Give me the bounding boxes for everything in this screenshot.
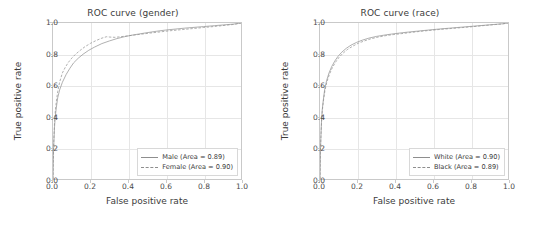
- y-tick-mark: [49, 54, 52, 55]
- x-tick-label: 0.6: [160, 182, 172, 191]
- x-axis-label: False positive rate: [319, 196, 509, 206]
- x-tick-mark: [471, 180, 472, 183]
- y-tick-mark: [316, 22, 319, 23]
- legend-line-solid-icon: [413, 153, 430, 161]
- legend-label: White (Area = 0.90): [434, 152, 500, 162]
- legend-item: White (Area = 0.90): [413, 152, 500, 162]
- legend-item: Male (Area = 0.89): [141, 152, 233, 162]
- legend-item: Black (Area = 0.89): [413, 162, 500, 172]
- y-tick-mark: [316, 148, 319, 149]
- plot-area-gender: Male (Area = 0.89) Female (Area = 0.90): [52, 22, 242, 180]
- y-axis-label: True positive rate: [280, 62, 290, 140]
- y-tick-mark: [49, 117, 52, 118]
- roc-curve-figure: ROC curve (gender) Male (Area = 0.89) Fe…: [0, 0, 533, 232]
- x-tick-label: 1.0: [503, 182, 515, 191]
- y-axis-label: True positive rate: [13, 62, 23, 140]
- legend-race: White (Area = 0.90) Black (Area = 0.89): [409, 148, 505, 176]
- y-tick-mark: [316, 54, 319, 55]
- x-tick-mark: [204, 180, 205, 183]
- x-tick-label: 0.4: [389, 182, 401, 191]
- x-axis-label: False positive rate: [52, 196, 242, 206]
- x-tick-mark: [395, 180, 396, 183]
- x-tick-label: 0.2: [351, 182, 363, 191]
- y-tick-mark: [49, 22, 52, 23]
- x-tick-mark: [166, 180, 167, 183]
- legend-label: Male (Area = 0.89): [162, 152, 224, 162]
- y-tick-mark: [49, 148, 52, 149]
- x-tick-label: 0.4: [122, 182, 134, 191]
- plot-area-race: White (Area = 0.90) Black (Area = 0.89): [319, 22, 509, 180]
- x-tick-label: 0.2: [84, 182, 96, 191]
- y-tick-mark: [49, 85, 52, 86]
- y-tick-mark: [316, 85, 319, 86]
- panel-title: ROC curve (gender): [0, 8, 266, 18]
- y-tick-mark: [49, 180, 52, 181]
- x-tick-label: 0.8: [198, 182, 210, 191]
- x-tick-mark: [128, 180, 129, 183]
- legend-label: Female (Area = 0.90): [162, 162, 233, 172]
- legend-line-dashed-icon: [413, 163, 430, 171]
- x-tick-mark: [90, 180, 91, 183]
- y-tick-mark: [316, 117, 319, 118]
- x-tick-mark: [242, 180, 243, 183]
- legend-gender: Male (Area = 0.89) Female (Area = 0.90): [137, 148, 238, 176]
- x-tick-label: 0.6: [427, 182, 439, 191]
- x-tick-mark: [433, 180, 434, 183]
- x-tick-mark: [509, 180, 510, 183]
- legend-item: Female (Area = 0.90): [141, 162, 233, 172]
- x-tick-mark: [357, 180, 358, 183]
- panel-gender: ROC curve (gender) Male (Area = 0.89) Fe…: [0, 0, 266, 232]
- panel-race: ROC curve (race) White (Area = 0.90) Bla…: [267, 0, 533, 232]
- legend-line-solid-icon: [141, 153, 158, 161]
- legend-line-dashed-icon: [141, 163, 158, 171]
- x-tick-label: 1.0: [236, 182, 248, 191]
- x-tick-label: 0.8: [465, 182, 477, 191]
- panel-title: ROC curve (race): [267, 8, 533, 18]
- y-tick-mark: [316, 180, 319, 181]
- legend-label: Black (Area = 0.89): [434, 162, 499, 172]
